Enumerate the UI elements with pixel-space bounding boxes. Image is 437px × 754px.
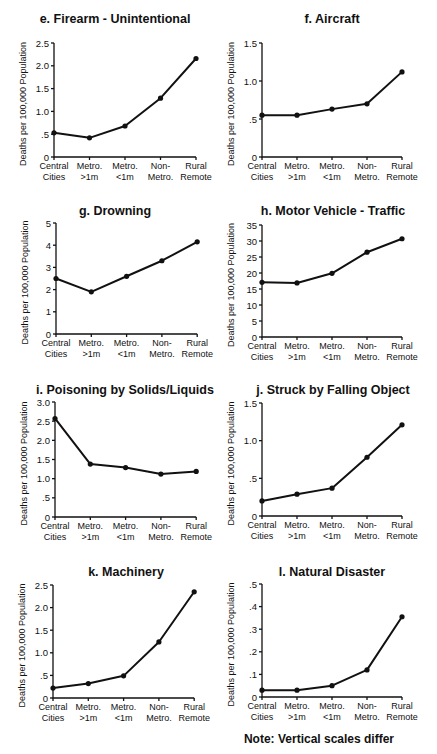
data-point-marker xyxy=(50,685,55,690)
x-category-label: >1m xyxy=(81,172,99,182)
x-category-label: <1m xyxy=(323,531,341,541)
data-point-marker xyxy=(88,462,93,467)
y-tick-label: .5 xyxy=(249,579,257,590)
x-category-label: Metro. xyxy=(78,521,104,531)
y-axis-label: Deaths per 100,000 Population xyxy=(18,42,28,166)
data-point-marker xyxy=(399,614,404,619)
data-point-marker xyxy=(294,688,299,693)
data-point-marker xyxy=(294,492,299,497)
data-point-marker xyxy=(329,271,334,276)
chart-panel: j. Struck by Falling ObjectDeaths per 10… xyxy=(226,383,418,541)
x-category-label: Non- xyxy=(152,338,172,348)
y-tick-label: 2.5 xyxy=(36,38,49,49)
x-category-label: Central xyxy=(247,341,276,351)
data-point-marker xyxy=(364,667,369,672)
y-tick-label: 20 xyxy=(246,268,257,279)
x-category-label: Remote xyxy=(180,532,212,542)
data-point-marker xyxy=(158,471,163,476)
axes xyxy=(262,584,402,697)
y-tick-label: 1.5 xyxy=(244,398,257,409)
y-axis-label: Deaths per 100,000 Population xyxy=(17,583,27,707)
x-category-label: Remote xyxy=(180,172,212,182)
x-category-label: Cities xyxy=(43,172,66,182)
x-category-label: Central xyxy=(39,161,68,171)
x-category-label: Remote xyxy=(386,531,418,541)
x-category-label: Metro. xyxy=(111,702,137,712)
x-category-label: <1m xyxy=(116,172,134,182)
y-tick-label: 1.5 xyxy=(37,454,50,465)
chart-title: f. Aircraft xyxy=(304,12,360,26)
chart-panel: g. DrowningDeaths per 100,000 Population… xyxy=(20,204,213,359)
chart-title: h. Motor Vehicle - Traffic xyxy=(261,204,406,218)
data-point-marker xyxy=(53,276,58,281)
x-category-label: Metro. xyxy=(354,172,380,182)
chart-title: i. Poisoning by Solids/Liquids xyxy=(36,383,214,397)
x-category-label: Central xyxy=(40,521,69,531)
y-tick-label: .5 xyxy=(40,670,48,681)
x-category-label: Metro. xyxy=(114,338,140,348)
x-category-label: Rural xyxy=(391,161,413,171)
y-tick-label: 1.5 xyxy=(35,625,48,636)
data-point-marker xyxy=(294,280,299,285)
chart-title: e. Firearm - Unintentional xyxy=(40,12,191,26)
x-category-label: Non- xyxy=(151,521,171,531)
y-axis-label: Deaths per 100,000 Population xyxy=(226,401,236,525)
series-line xyxy=(262,239,402,283)
x-category-label: Metro. xyxy=(77,161,103,171)
y-tick-label: 1.0 xyxy=(244,76,257,87)
data-point-marker xyxy=(195,239,200,244)
y-tick-label: .3 xyxy=(249,624,257,635)
x-category-label: Metro. xyxy=(79,338,105,348)
y-tick-label: 10 xyxy=(246,300,257,311)
x-category-label: >1m xyxy=(288,712,306,722)
x-category-label: Metro. xyxy=(354,352,380,362)
y-tick-label: 5 xyxy=(252,316,257,327)
x-category-label: Non- xyxy=(149,702,169,712)
chart-title: g. Drowning xyxy=(79,204,151,218)
x-category-label: Rural xyxy=(185,161,207,171)
x-category-label: Cities xyxy=(42,713,65,723)
chart-title: k. Machinery xyxy=(88,565,164,579)
x-category-label: Remote xyxy=(178,713,210,723)
chart-grid-figure: e. Firearm - UnintentionalDeaths per 100… xyxy=(0,0,437,754)
chart-panel: f. AircraftDeaths per 100,000 Population… xyxy=(226,12,418,182)
x-category-label: Cities xyxy=(44,532,67,542)
y-tick-label: 3.0 xyxy=(37,397,50,408)
data-point-marker xyxy=(364,250,369,255)
x-category-label: Central xyxy=(247,701,276,711)
x-category-label: Metro. xyxy=(319,161,345,171)
chart-panel: i. Poisoning by Solids/LiquidsDeaths per… xyxy=(19,383,214,542)
x-category-label: Central xyxy=(247,520,276,530)
data-point-marker xyxy=(123,465,128,470)
y-axis-label: Deaths per 100,000 Population xyxy=(20,220,30,344)
x-category-label: Metro. xyxy=(148,172,174,182)
y-tick-label: 1.0 xyxy=(36,106,49,117)
series-line xyxy=(56,242,197,292)
x-category-label: >1m xyxy=(288,352,306,362)
x-category-label: Metro. xyxy=(354,712,380,722)
y-tick-label: .5 xyxy=(249,473,257,484)
x-category-label: Rural xyxy=(183,702,205,712)
y-tick-label: 2.5 xyxy=(37,416,50,427)
data-point-marker xyxy=(399,422,404,427)
x-category-label: Non- xyxy=(151,161,171,171)
y-tick-label: 5 xyxy=(46,218,51,229)
chart-panel: h. Motor Vehicle - TrafficDeaths per 100… xyxy=(226,204,418,362)
y-tick-label: 1.5 xyxy=(244,38,257,49)
axes xyxy=(54,43,196,157)
x-category-label: Metro. xyxy=(76,702,102,712)
x-category-label: Remote xyxy=(181,349,213,359)
x-category-label: Rural xyxy=(391,520,413,530)
y-tick-label: 1 xyxy=(46,306,51,317)
x-category-label: Metro. xyxy=(319,701,345,711)
x-category-label: <1m xyxy=(323,352,341,362)
x-category-label: Central xyxy=(38,702,67,712)
data-point-marker xyxy=(259,113,264,118)
y-tick-label: 2.0 xyxy=(37,435,50,446)
x-category-label: Metro. xyxy=(148,532,174,542)
data-point-marker xyxy=(121,673,126,678)
vertical-scales-note: Note: Vertical scales differ xyxy=(244,732,394,746)
x-category-label: Remote xyxy=(386,712,418,722)
chart-panel: e. Firearm - UnintentionalDeaths per 100… xyxy=(18,12,212,182)
y-axis-label: Deaths per 100,000 Population xyxy=(19,401,29,525)
